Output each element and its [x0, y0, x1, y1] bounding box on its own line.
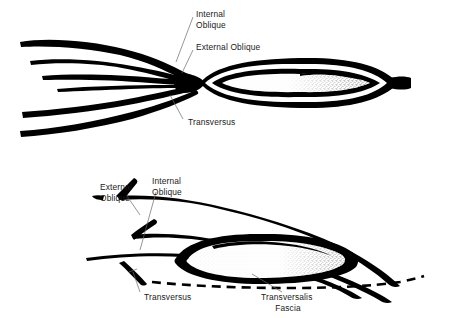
label-transversus-lower: Transversus [144, 292, 191, 302]
label-external-oblique-lower: External Oblique [100, 182, 134, 203]
label-line-1: External Oblique [196, 42, 261, 52]
label-line-2: Oblique [196, 20, 226, 30]
upper-cord-tail [387, 77, 411, 90]
label-line-1: Internal [152, 176, 181, 186]
label-line-1: External [100, 182, 132, 192]
label-line-1: Transversus [188, 117, 235, 127]
label-external-oblique-upper: External Oblique [196, 42, 261, 52]
label-line-1: Transversalis [261, 292, 312, 302]
label-line-2: Fascia [275, 303, 301, 313]
label-line-2: Oblique [152, 187, 182, 197]
label-line-1: Internal [196, 9, 225, 19]
anatomy-illustration: Internal Oblique External Oblique Transv… [0, 0, 464, 318]
label-internal-oblique-lower: Internal Oblique [152, 176, 184, 197]
label-internal-oblique-upper: Internal Oblique [196, 9, 228, 30]
label-line-2: Oblique [100, 193, 130, 203]
anatomy-figure: Internal Oblique External Oblique Transv… [0, 0, 464, 318]
label-line-1: Transversus [144, 292, 191, 302]
label-transversus-upper: Transversus [188, 117, 235, 127]
